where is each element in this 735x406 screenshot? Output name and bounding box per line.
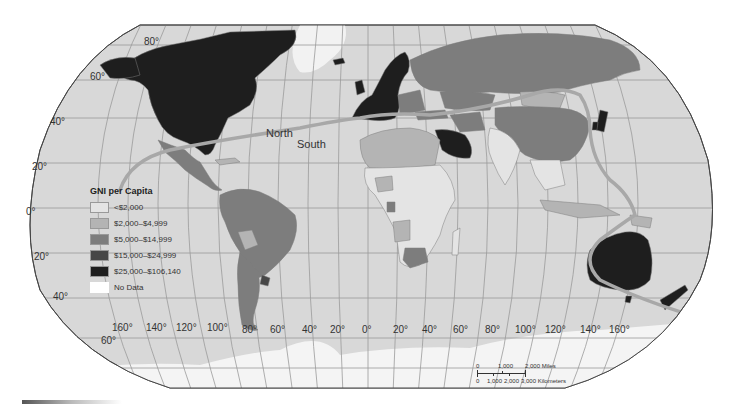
scale-km-2000: 2,000 — [504, 378, 519, 384]
scale-tick — [477, 370, 478, 377]
legend-item: $15,000–$24,999 — [90, 249, 210, 262]
scale-tick — [493, 373, 494, 376]
scale-tick — [502, 371, 503, 374]
lon-label-80w: 80° — [242, 324, 257, 335]
legend-swatch — [90, 202, 109, 213]
scale-line — [477, 373, 525, 374]
legend-label: $5,000–$14,999 — [114, 235, 172, 244]
scale-km-0: 0 — [476, 378, 479, 384]
legend-label: $25,000–$106,140 — [114, 267, 181, 276]
legend-swatch — [90, 250, 109, 261]
lon-label-60e: 60° — [453, 324, 468, 335]
lon-label-60w: 60° — [270, 324, 285, 335]
lon-label-140e: 140° — [580, 324, 601, 335]
legend-item: $5,000–$14,999 — [90, 233, 210, 246]
country-gabon — [387, 202, 395, 212]
lat-label-60s: 60° — [101, 335, 116, 346]
legend: GNI per Capita <$2,000 $2,000–$4,999 $5,… — [90, 186, 210, 297]
country-angola — [393, 220, 410, 242]
legend-label: $2,000–$4,999 — [114, 219, 167, 228]
country-korea — [592, 122, 598, 130]
scale-miles-1000: 1,000 — [498, 363, 513, 369]
legend-title: GNI per Capita — [90, 186, 210, 196]
scale-bar: 0 1,000 2,000 Miles 0 1,000 2,000 3,000 … — [476, 363, 596, 393]
lon-label-120e: 120° — [545, 324, 566, 335]
lon-label-100e: 100° — [515, 324, 536, 335]
lon-label-0: 0° — [362, 324, 372, 335]
legend-label: No Data — [114, 283, 143, 292]
lat-label-20s: 20° — [34, 251, 49, 262]
region-north-africa — [360, 128, 440, 169]
south-label: South — [297, 138, 326, 150]
lat-label-20n: 20° — [32, 161, 47, 172]
lon-label-160e: 160° — [609, 324, 630, 335]
legend-swatch — [90, 282, 109, 293]
lon-label-40e: 40° — [422, 324, 437, 335]
legend-swatch — [90, 266, 109, 277]
decorative-bar — [22, 400, 122, 404]
scale-miles-2000: 2,000 Miles — [525, 363, 556, 369]
lon-label-120w: 120° — [176, 322, 197, 333]
lat-label-0: 0° — [26, 206, 36, 217]
lon-label-20w: 20° — [330, 324, 345, 335]
north-label: North — [266, 127, 293, 139]
lon-label-80e: 80° — [485, 324, 500, 335]
legend-label: $15,000–$24,999 — [114, 251, 176, 260]
scale-tick — [509, 373, 510, 376]
legend-item: $25,000–$106,140 — [90, 265, 210, 278]
lat-label-60n: 60° — [90, 71, 105, 82]
legend-swatch — [90, 218, 109, 229]
country-mongolia — [520, 91, 565, 108]
legend-item: No Data — [90, 281, 210, 294]
legend-swatch — [90, 234, 109, 245]
scale-tick — [525, 370, 526, 377]
lon-label-100w: 100° — [207, 322, 228, 333]
lat-label-40n: 40° — [50, 116, 65, 127]
lon-label-140w: 140° — [146, 322, 167, 333]
lat-label-40s: 40° — [53, 291, 68, 302]
legend-item: <$2,000 — [90, 201, 210, 214]
lon-label-40w: 40° — [302, 324, 317, 335]
scale-miles-0: 0 — [476, 363, 479, 369]
lon-label-20e: 20° — [393, 324, 408, 335]
legend-label: <$2,000 — [114, 203, 143, 212]
lon-label-160w: 160° — [112, 322, 133, 333]
country-nigeria — [375, 176, 393, 192]
scale-km-3000: 3,000 Kilometers — [521, 378, 566, 384]
legend-item: $2,000–$4,999 — [90, 217, 210, 230]
lat-label-80n: 80° — [144, 36, 159, 47]
scale-km-1000: 1,000 — [487, 378, 502, 384]
